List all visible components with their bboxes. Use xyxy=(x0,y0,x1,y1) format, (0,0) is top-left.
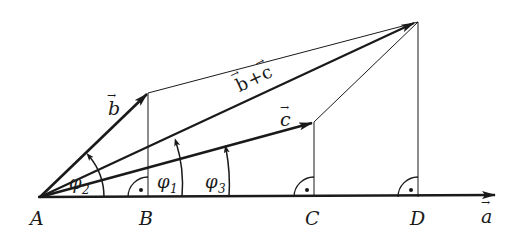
angle-arc-phi3 xyxy=(226,149,229,197)
vector-addition-projection-diagram: A B C D b → c → a → b → + c → φ 2 φ 1 φ … xyxy=(0,0,513,242)
vector-label-c: c → xyxy=(280,101,291,130)
right-angle-mark-C xyxy=(294,177,314,197)
line-c-tip-to-sum-tip xyxy=(314,22,418,122)
angle-label-phi1: φ 1 xyxy=(157,171,178,196)
vector-label-a: a → xyxy=(481,196,492,227)
angle-label-phi3: φ 3 xyxy=(205,171,226,196)
svg-text:1: 1 xyxy=(170,182,178,196)
svg-text:φ: φ xyxy=(69,172,82,193)
point-label-B: B xyxy=(138,207,153,229)
line-b-tip-to-sum-tip xyxy=(148,22,418,93)
svg-text:3: 3 xyxy=(218,182,226,196)
vector-label-b: b → xyxy=(107,89,120,119)
point-label-D: D xyxy=(409,207,425,229)
point-label-C: C xyxy=(305,207,320,229)
svg-text:φ: φ xyxy=(157,171,170,192)
point-label-A: A xyxy=(28,207,44,229)
vector-arrow-icon: → xyxy=(280,101,289,114)
right-angle-mark-D xyxy=(398,177,418,197)
vector-arrow-icon: → xyxy=(481,196,490,209)
svg-text:φ: φ xyxy=(205,171,218,192)
angle-arc-phi2 xyxy=(89,156,104,197)
svg-text:2: 2 xyxy=(81,183,90,197)
vector-arrow-icon: → xyxy=(107,89,116,102)
vector-b-plus-c xyxy=(40,23,414,197)
axis-a xyxy=(38,195,495,197)
right-angle-mark-B xyxy=(128,177,148,197)
